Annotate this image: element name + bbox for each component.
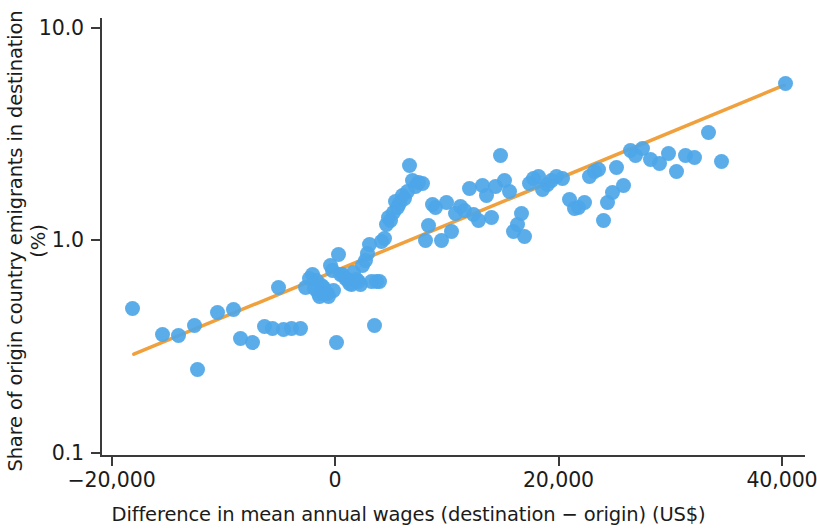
data-point [233,331,248,346]
data-point [349,272,364,287]
data-point [466,207,481,222]
data-point [155,327,170,342]
data-point [383,213,398,228]
data-point [408,179,423,194]
data-point [386,205,401,220]
data-point [374,234,389,249]
x-tick-label: 0 [329,468,342,492]
data-point [340,272,355,287]
data-point [628,148,643,163]
data-point [390,200,405,215]
data-point [305,267,320,282]
data-point [395,188,410,203]
data-point [265,321,280,336]
y-tick-mark [91,27,100,29]
data-point [298,280,313,295]
data-point [187,318,202,333]
data-point [453,199,468,214]
data-point [346,265,361,280]
data-point [320,286,335,301]
data-point [171,328,186,343]
data-point [293,321,308,336]
y-tick-mark [91,239,100,241]
data-point [616,178,631,193]
data-point [544,173,559,188]
x-tick-label: 20,000 [523,468,594,492]
data-point [331,247,346,262]
data-point [596,213,611,228]
x-tick-mark [334,457,336,466]
data-point [605,185,620,200]
data-point [421,218,436,233]
data-point [609,160,624,175]
data-point [577,195,592,210]
data-point [307,281,322,296]
data-point [323,258,338,273]
data-point [326,283,341,298]
y-axis-title: Share of origin country emigrants in des… [4,6,50,476]
data-point [600,195,615,210]
y-tick-mark [91,452,100,454]
data-point [678,148,693,163]
trend-line [0,0,817,532]
data-point [338,271,353,286]
scatter-chart-figure: 0.11.010.0−20,000020,00040,000 Differenc… [0,0,817,532]
x-axis-title: Difference in mean annual wages (destina… [0,503,817,526]
data-point [411,175,426,190]
x-tick-mark [558,457,560,466]
data-point [778,76,793,91]
data-point [397,191,412,206]
data-point [381,210,396,225]
data-point [701,125,716,140]
data-point [342,276,357,291]
plot-area [0,0,817,532]
data-point [309,273,324,288]
data-point [428,200,443,215]
data-point [418,233,433,248]
data-point [462,181,477,196]
data-point [471,213,486,228]
data-point [506,224,521,239]
data-point [549,169,564,184]
data-point [587,164,602,179]
data-point [392,196,407,211]
x-tick-mark [781,457,783,466]
data-point [531,169,546,184]
data-point [497,173,512,188]
data-point [493,148,508,163]
data-point [276,322,291,337]
data-point [555,171,570,186]
data-point [439,195,454,210]
data-point [669,164,684,179]
data-point [210,305,225,320]
data-point [284,321,299,336]
data-point [314,278,329,293]
data-point [353,277,368,292]
data-point [329,335,344,350]
x-tick-label: 40,000 [746,468,817,492]
data-point [388,194,403,209]
data-point [360,246,375,261]
data-point [571,200,586,215]
data-point [448,206,463,221]
data-point [355,258,370,273]
data-point [535,182,550,197]
data-point [643,152,658,167]
data-point [434,233,449,248]
data-point [379,217,394,232]
data-point [475,178,490,193]
x-tick-label: −20,000 [67,468,155,492]
data-point [402,158,417,173]
data-point [335,267,350,282]
data-point [257,319,272,334]
data-point [333,267,348,282]
data-point [321,289,336,304]
data-point [312,289,327,304]
data-point [369,274,384,289]
data-point [635,141,650,156]
data-point [367,318,382,333]
data-point [405,173,420,188]
data-point [226,302,241,317]
data-point [190,362,205,377]
data-point [245,335,260,350]
